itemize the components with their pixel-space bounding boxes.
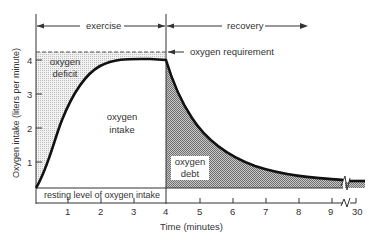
y-tick-1: 1	[27, 158, 32, 168]
x-tick-6: 6	[230, 207, 235, 217]
oxygen-requirement-label: oxygen requirement	[190, 47, 274, 57]
x-tick-9: 9	[328, 207, 333, 217]
oxygen-intake-label: oxygen intake	[100, 110, 144, 136]
y-tick-2: 2	[27, 124, 32, 134]
x-tick-5: 5	[197, 207, 202, 217]
y-tick-3: 3	[27, 90, 32, 100]
x-tick-30: 30	[352, 207, 363, 217]
oxygen-debt-label: oxygen debt	[171, 156, 209, 180]
y-tick-4: 4	[27, 56, 32, 66]
recovery-phase-label: recovery	[225, 21, 265, 31]
x-tick-2: 2	[98, 207, 103, 217]
exercise-phase-label: exercise	[84, 21, 123, 31]
x-tick-3: 3	[131, 207, 136, 217]
oxygen-deficit-label: oxygen deficit	[45, 56, 85, 80]
y-axis-label: Oxygen intake (liters per minute)	[11, 58, 21, 178]
x-tick-8: 8	[296, 207, 301, 217]
x-tick-4: 4	[163, 207, 168, 217]
x-tick-7: 7	[263, 207, 268, 217]
resting-level-label: resting level of oxygen intake	[44, 191, 160, 200]
diagram-canvas	[0, 0, 369, 238]
x-tick-1: 1	[65, 207, 70, 217]
axis-break-icon	[341, 198, 350, 207]
x-axis-label: Time (minutes)	[160, 222, 223, 232]
